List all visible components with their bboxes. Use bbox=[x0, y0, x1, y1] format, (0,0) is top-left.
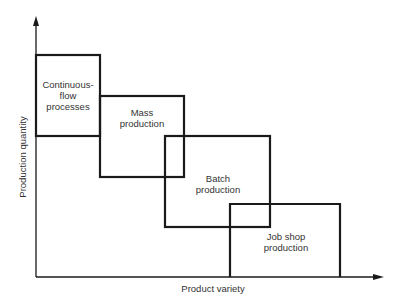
batch-production-label-1: Batch bbox=[206, 173, 230, 184]
continuous-flow-label-2: flow bbox=[60, 90, 77, 101]
mass-production-label-2: production bbox=[120, 118, 164, 129]
batch-production-label-2: production bbox=[196, 184, 240, 195]
x-axis-arrow-icon bbox=[373, 274, 384, 280]
job-shop-label-1: Job shop bbox=[267, 231, 306, 242]
production-types-diagram: Continuous- flow processes Mass producti… bbox=[0, 0, 399, 299]
mass-production-label-1: Mass bbox=[131, 107, 154, 118]
x-axis-label: Product variety bbox=[181, 283, 245, 294]
continuous-flow-label-3: processes bbox=[46, 101, 90, 112]
continuous-flow-label-1: Continuous- bbox=[42, 79, 93, 90]
y-axis-label: Production quantity bbox=[17, 116, 28, 198]
y-axis-arrow-icon bbox=[33, 16, 39, 26]
job-shop-label-2: production bbox=[264, 242, 308, 253]
